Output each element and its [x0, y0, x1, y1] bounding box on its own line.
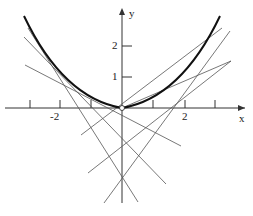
y-axis-label: y: [129, 8, 135, 19]
y-tick-2: 2: [112, 40, 118, 51]
x-axis-label: x: [239, 113, 245, 124]
x-tick-2: 2: [182, 111, 188, 122]
x-tick-neg2: -2: [50, 111, 59, 122]
x-axis-arrow-icon: [238, 105, 245, 111]
origin-marker: [120, 106, 125, 111]
y-axis-arrow-icon: [119, 8, 125, 15]
y-tick-1: 1: [112, 71, 118, 82]
parabola-tangent-diagram: [0, 0, 253, 216]
figure: y x -2 2 1 2: [0, 0, 253, 216]
